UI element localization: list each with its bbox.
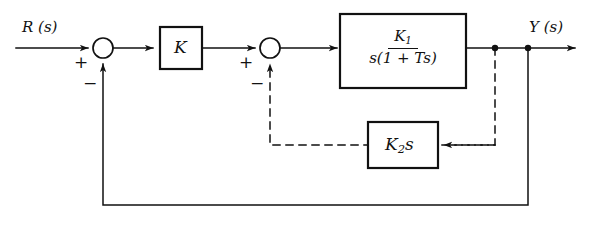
reference-input-label: R (s)	[22, 20, 57, 35]
system-output-label: Y (s)	[529, 20, 563, 35]
summing-junction-outer	[93, 38, 113, 58]
summing-junction-outer-minus-sign: −	[83, 75, 97, 92]
plant-denominator: s(1 + Ts)	[340, 49, 466, 67]
summing-junction-outer-plus-sign: +	[74, 54, 88, 71]
gain-block-k-label: K	[174, 39, 187, 56]
takeoff-inner-loop	[492, 45, 498, 51]
diagram-vector-layer	[0, 0, 593, 230]
takeoff-outer-loop	[525, 45, 531, 51]
block-diagram-canvas: R (s) Y (s) + − + − K K1 s(1 + Ts) K2s	[0, 0, 593, 230]
summing-junction-inner	[260, 38, 280, 58]
summing-junction-inner-minus-sign: −	[250, 75, 264, 92]
plant-block-transfer-function-label: K1 s(1 + Ts)	[340, 28, 466, 66]
rate-feedback-block-label: K2s	[385, 136, 414, 156]
summing-junction-inner-plus-sign: +	[239, 54, 253, 71]
plant-numerator: K1	[388, 29, 418, 49]
